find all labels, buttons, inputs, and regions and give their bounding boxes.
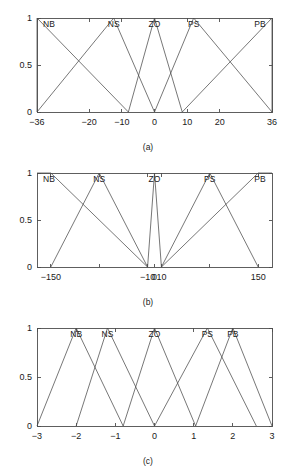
xtick-label: 20: [215, 117, 225, 127]
mf-curve-zo: [123, 328, 195, 426]
panel-c-yticks: 00.51: [19, 323, 272, 431]
set-label-zo: ZO: [149, 329, 161, 339]
set-label-zo: ZO: [149, 19, 161, 29]
panel-b-caption: (b): [143, 297, 154, 307]
set-label-ps: PS: [204, 174, 216, 184]
set-label-ps: PS: [188, 19, 200, 29]
ytick-label: 1: [27, 323, 32, 333]
set-label-nb: NB: [43, 174, 55, 184]
xtick-label: −10: [114, 117, 129, 127]
xtick-label: −150: [41, 272, 61, 282]
ytick-label: 0.5: [19, 215, 32, 225]
panel-b-frame: [37, 173, 272, 267]
xtick-label: 1: [191, 431, 196, 441]
mf-curve-ns: [76, 328, 154, 426]
xtick-label: 150: [251, 272, 266, 282]
panel-b-plot: −150−10010150 00.51 NBNSZOPSPB (b): [0, 155, 296, 310]
panel-c-setlabels: NBNSZOPSPB: [70, 329, 239, 339]
ytick-label: 0: [27, 421, 32, 431]
ytick-label: 1: [27, 13, 32, 23]
set-label-nb: NB: [43, 19, 55, 29]
panel-c: −3−2−10123 00.51 NBNSZOPSPB (c): [0, 310, 296, 469]
mf-curve-ns: [37, 18, 155, 112]
set-label-pb: PB: [227, 329, 239, 339]
set-label-ns: NS: [102, 329, 114, 339]
mf-curve-nb: [37, 328, 123, 426]
panel-c-frame: [37, 328, 272, 426]
set-label-ns: NS: [93, 174, 105, 184]
xtick-label: 10: [156, 272, 166, 282]
set-label-pb: PB: [254, 19, 266, 29]
set-label-zo: ZO: [149, 174, 161, 184]
xtick-label: 36: [267, 117, 277, 127]
panel-c-caption: (c): [143, 456, 153, 466]
xtick-label: −2: [71, 431, 81, 441]
xtick-label: −36: [29, 117, 44, 127]
panel-b-setlabels: NBNSZOPSPB: [43, 174, 266, 184]
set-label-ns: NS: [108, 19, 120, 29]
panel-a-caption: (a): [143, 142, 154, 152]
panel-c-plot: −3−2−10123 00.51 NBNSZOPSPB (c): [0, 310, 296, 469]
ytick-label: 0: [27, 107, 32, 117]
set-label-ps: PS: [202, 329, 214, 339]
panel-c-curves: [37, 328, 272, 426]
panel-b-curves: [37, 173, 272, 267]
mf-curve-nb: [37, 18, 128, 112]
fuzzy-membership-figure: −36−20−100102036 00.51 NBNSZOPSPB (a) −1…: [0, 0, 296, 469]
panel-a-yticks: 00.51: [19, 13, 272, 117]
panel-b: −150−10010150 00.51 NBNSZOPSPB (b): [0, 155, 296, 310]
xtick-label: 0: [152, 117, 157, 127]
mf-curve-ps: [155, 18, 273, 112]
xtick-label: 0: [152, 431, 157, 441]
xtick-label: 10: [182, 117, 192, 127]
ytick-label: 0.5: [19, 60, 32, 70]
set-label-pb: PB: [254, 174, 266, 184]
mf-curve-pb: [196, 328, 272, 426]
panel-a-xticks: −36−20−100102036: [29, 18, 277, 127]
ytick-label: 0.5: [19, 372, 32, 382]
mf-curve-ps: [155, 328, 257, 426]
panel-a-frame: [37, 18, 272, 112]
xtick-label: −3: [32, 431, 42, 441]
xtick-label: 2: [230, 431, 235, 441]
panel-a-setlabels: NBNSZOPSPB: [43, 19, 266, 29]
set-label-nb: NB: [70, 329, 82, 339]
xtick-label: −1: [110, 431, 120, 441]
mf-curve-pb: [182, 18, 272, 112]
xtick-label: −20: [82, 117, 97, 127]
panel-a: −36−20−100102036 00.51 NBNSZOPSPB (a): [0, 0, 296, 155]
mf-curve-zo: [148, 173, 162, 267]
ytick-label: 1: [27, 168, 32, 178]
panel-a-curves: [37, 18, 272, 112]
ytick-label: 0: [27, 262, 32, 272]
xtick-label: 3: [269, 431, 274, 441]
panel-a-plot: −36−20−100102036 00.51 NBNSZOPSPB (a): [0, 0, 296, 155]
